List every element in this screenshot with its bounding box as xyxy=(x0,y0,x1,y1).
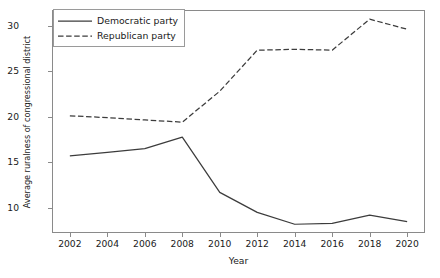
x-tick-mark xyxy=(107,233,108,237)
y-tick-mark xyxy=(48,26,52,27)
x-tick-label: 2016 xyxy=(312,238,352,249)
x-tick-mark xyxy=(70,233,71,237)
x-tick-label: 2020 xyxy=(387,238,427,249)
x-tick-mark xyxy=(407,233,408,237)
x-tick-mark xyxy=(332,233,333,237)
x-tick-mark xyxy=(295,233,296,237)
legend-label: Republican party xyxy=(97,30,176,41)
x-tick-label: 2012 xyxy=(237,238,277,249)
x-tick-label: 2004 xyxy=(87,238,127,249)
y-tick-label: 20 xyxy=(0,112,19,122)
x-tick-mark xyxy=(257,233,258,237)
x-tick-label: 2018 xyxy=(350,238,390,249)
series-line-democratic-party xyxy=(70,137,407,224)
y-axis-label: Average ruralness of congressional distr… xyxy=(18,6,36,238)
x-tick-label: 2008 xyxy=(162,238,202,249)
legend-line-swatch xyxy=(58,31,92,41)
chart-figure: Average ruralness of congressional distr… xyxy=(0,0,440,278)
x-tick-mark xyxy=(370,233,371,237)
y-tick-label: 10 xyxy=(0,203,19,213)
x-tick-label: 2002 xyxy=(50,238,90,249)
y-tick-mark xyxy=(48,71,52,72)
x-tick-label: 2006 xyxy=(125,238,165,249)
legend-line-swatch xyxy=(58,16,92,26)
legend-item: Democratic party xyxy=(58,13,178,28)
y-tick-mark xyxy=(48,162,52,163)
x-tick-label: 2014 xyxy=(275,238,315,249)
y-tick-mark xyxy=(48,208,52,209)
x-tick-label: 2010 xyxy=(200,238,240,249)
y-tick-mark xyxy=(48,117,52,118)
legend-item: Republican party xyxy=(58,28,178,43)
x-tick-mark xyxy=(220,233,221,237)
x-tick-mark xyxy=(145,233,146,237)
y-tick-label: 30 xyxy=(0,21,19,31)
y-tick-label: 15 xyxy=(0,157,19,167)
y-tick-label: 25 xyxy=(0,66,19,76)
chart-legend: Democratic partyRepublican party xyxy=(53,9,185,47)
legend-label: Democratic party xyxy=(97,15,178,26)
x-axis-label: Year xyxy=(52,255,425,266)
x-tick-mark xyxy=(182,233,183,237)
